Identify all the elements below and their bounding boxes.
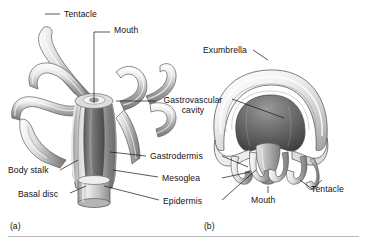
medusa-illustration	[214, 70, 328, 190]
leader-epidermis-a	[104, 186, 159, 200]
label-epidermis: Epidermis	[163, 197, 202, 207]
leader-mouth-a	[94, 32, 110, 103]
label-gastrovascular-cavity: Gastrovascular cavity	[160, 96, 226, 115]
polyp-basal-disc	[78, 176, 110, 208]
cnidarian-body-forms-figure: Tentacle Mouth Gastrovascular cavity Gas…	[0, 0, 367, 242]
polyp-tentacle-left-cutaway	[20, 119, 66, 168]
polyp-tentacle-right-cutaway	[116, 110, 140, 164]
polyp-body-column	[72, 100, 116, 188]
label-mesoglea: Mesoglea	[162, 174, 200, 184]
label-body-stalk: Body stalk	[8, 166, 49, 176]
panel-label-b: (b)	[204, 221, 215, 231]
label-tentacle-polyp: Tentacle	[64, 10, 97, 20]
label-tentacle-medusa: Tentacle	[311, 185, 344, 195]
label-exumbrella: Exumbrella	[203, 46, 247, 56]
label-mouth-polyp: Mouth	[114, 26, 138, 36]
label-basal-disc: Basal disc	[18, 190, 58, 200]
leader-mesoglea-a	[113, 170, 158, 177]
polyp-tentacle-right-mid	[116, 66, 147, 110]
leader-exumbrella	[253, 50, 268, 60]
label-mouth-medusa: Mouth	[251, 196, 275, 206]
panel-label-a: (a)	[10, 221, 21, 231]
medusa-gastrovascular-cavity	[236, 95, 305, 151]
label-gastrodermis: Gastrodermis	[150, 152, 203, 162]
figure-bottom-rule	[8, 236, 359, 237]
